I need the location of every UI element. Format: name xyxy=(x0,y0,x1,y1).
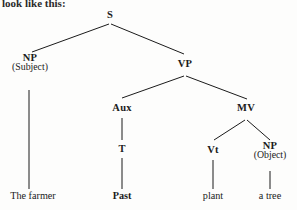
node-label: Aux xyxy=(112,102,131,113)
tree-node-t: T xyxy=(118,143,125,154)
syntax-tree-figure: look like this: SNP(Subject)VPAuxMVTVtNP… xyxy=(0,0,297,210)
node-sublabel: (Subject) xyxy=(12,62,48,73)
tree-edge-s-to-vp xyxy=(111,24,184,54)
node-label: VP xyxy=(178,58,192,69)
tree-edge-mv-to-np_obj xyxy=(247,120,270,140)
node-label: Vt xyxy=(207,144,218,155)
tree-node-w-farmer: The farmer xyxy=(10,190,56,201)
node-label: plant xyxy=(203,190,223,201)
tree-edge-mv-to-vt xyxy=(214,120,245,140)
node-label: T xyxy=(118,143,125,154)
node-label: The farmer xyxy=(10,190,56,201)
node-label: a tree xyxy=(259,190,281,201)
node-label: MV xyxy=(237,102,255,113)
tree-edge-vp-to-aux xyxy=(122,76,184,98)
tree-node-w-plant: plant xyxy=(203,190,223,201)
tree-node-mv: MV xyxy=(237,102,255,113)
node-label: Past xyxy=(113,190,132,201)
node-label: S xyxy=(107,9,113,20)
tree-node-vt: Vt xyxy=(207,144,218,155)
tree-node-np-obj: NP(Object) xyxy=(254,140,287,161)
tree-node-s: S xyxy=(107,9,113,20)
tree-edge-s-to-np_subj xyxy=(32,24,109,52)
tree-node-w-past: Past xyxy=(113,190,132,201)
tree-edge-vp-to-mv xyxy=(186,76,247,99)
tree-node-np-subj: NP(Subject) xyxy=(12,52,48,73)
node-sublabel: (Object) xyxy=(254,150,287,161)
tree-node-w-tree: a tree xyxy=(259,190,281,201)
tree-node-aux: Aux xyxy=(112,102,131,113)
tree-node-vp: VP xyxy=(178,58,192,69)
